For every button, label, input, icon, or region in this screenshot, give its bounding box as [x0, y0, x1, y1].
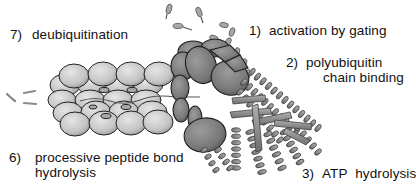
- helix-turn: [245, 129, 255, 136]
- peptide-fragment: [24, 103, 36, 104]
- helix-turn: [264, 81, 273, 90]
- helix-turn: [212, 166, 220, 173]
- helix-turn: [232, 153, 241, 157]
- helix-turn: [204, 153, 212, 160]
- peptide-fragment: [7, 94, 15, 101]
- helix-turn: [277, 164, 287, 171]
- helix-turn: [208, 160, 216, 167]
- helix-turn: [292, 105, 301, 114]
- helix-turn: [250, 87, 259, 96]
- helix-turn: [286, 140, 296, 148]
- helix-turn: [263, 130, 273, 137]
- helix-turn: [286, 100, 295, 109]
- step-text: activation by gating: [269, 23, 387, 38]
- ubiquitin: [173, 23, 183, 28]
- helix-turn: [232, 147, 241, 151]
- helix-turn: [259, 77, 268, 86]
- helix-turn: [266, 137, 276, 144]
- step-number: 7): [10, 27, 32, 42]
- helix-turn: [269, 144, 279, 151]
- helix-turn: [253, 155, 263, 162]
- helix-turn: [289, 146, 299, 154]
- helix-turn: [257, 169, 267, 176]
- helix-turn: [281, 95, 290, 104]
- helix-turn: [314, 123, 323, 132]
- released-peptides: [7, 91, 36, 104]
- helix-turn: [274, 157, 284, 164]
- helix-turn: [303, 114, 312, 123]
- helix-turn: [222, 158, 231, 166]
- label-step-7-deubiquitination: 7)deubiquitination: [10, 27, 128, 42]
- step-text: deubiquitination: [32, 27, 128, 42]
- step-number: 3): [302, 166, 322, 181]
- helix-turn: [270, 86, 279, 95]
- helix-turn: [232, 141, 241, 145]
- step-text: hydrolysis: [355, 166, 416, 181]
- helix-turn: [271, 151, 281, 158]
- helix-turn: [232, 128, 241, 132]
- helix-turn: [253, 72, 262, 81]
- helix-turn: [226, 164, 235, 172]
- step-text-continued: chain binding: [286, 70, 404, 85]
- helix-turn: [297, 109, 306, 118]
- helix-turn: [255, 162, 265, 169]
- helix-turn: [232, 134, 241, 138]
- label-step-2-polyubiquitin-binding: 2)polyubiquitin chain binding: [286, 55, 404, 85]
- step-text: ATP: [322, 166, 348, 181]
- step-number: 6): [9, 150, 35, 165]
- label-step-6-peptide-hydrolysis: 6)processive peptide bond hydrolysis: [9, 150, 184, 180]
- helix-turn: [218, 152, 227, 160]
- label-step-1-activation-by-gating: 1)activation by gating: [249, 23, 387, 38]
- helix-turn: [248, 67, 257, 76]
- label-step-3-atp-hydrolysis: 3)ATP hydrolysis: [302, 166, 416, 181]
- helix-turn: [309, 142, 318, 151]
- helix-turn: [314, 148, 323, 157]
- step-number: 1): [249, 23, 269, 38]
- ubiquitin: [228, 27, 236, 37]
- peptide-fragment: [24, 91, 35, 93]
- helix-turn: [232, 160, 241, 164]
- ubiquitin: [165, 3, 173, 14]
- step-number: 2): [286, 55, 306, 70]
- helix-turn: [275, 91, 284, 100]
- helix-turn: [295, 158, 305, 166]
- ubiquitin: [219, 22, 229, 28]
- helix-turn: [292, 152, 302, 160]
- ubiquitin: [195, 6, 203, 17]
- step-text: processive peptide bond: [35, 150, 184, 165]
- step-text: polyubiquitin: [306, 55, 382, 70]
- step-text-continued: hydrolysis: [9, 165, 184, 180]
